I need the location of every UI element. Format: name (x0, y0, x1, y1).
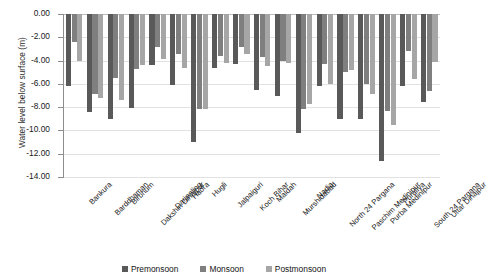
bar-postmonsoon (432, 14, 437, 62)
bar-monsoon (134, 14, 139, 69)
legend-item: Premonsoon (122, 264, 179, 274)
x-axis-tick-label: Hugli (210, 180, 229, 199)
bar-premonsoon (254, 14, 259, 90)
bar-premonsoon (400, 14, 405, 86)
bar-group (275, 14, 292, 177)
bar-postmonsoon (140, 14, 145, 65)
bar-postmonsoon (328, 14, 333, 84)
x-axis-tick-labels: BankuraBarddhamanBirbhumDakshin Dinajpur… (64, 180, 440, 242)
bar-premonsoon (170, 14, 175, 85)
bar-premonsoon (421, 14, 426, 102)
bar-group (129, 14, 146, 177)
bar-postmonsoon (77, 14, 82, 61)
bar-monsoon (197, 14, 202, 109)
gridline (64, 177, 440, 178)
bar-premonsoon (191, 14, 196, 142)
bar-postmonsoon (286, 14, 291, 63)
bar-monsoon (406, 14, 411, 51)
y-axis-tick (58, 130, 63, 131)
legend-swatch-icon (200, 266, 206, 272)
bar-group (233, 14, 250, 177)
bar-monsoon (343, 14, 348, 72)
y-axis-tick-label: -6.00 (0, 78, 50, 88)
bar-premonsoon (108, 14, 113, 119)
legend-label: Premonsoon (131, 264, 179, 274)
bar-monsoon (72, 14, 77, 42)
bar-premonsoon (337, 14, 342, 119)
legend-label: Postmonsoon (275, 264, 326, 274)
x-axis-tick-label: Maldah (275, 180, 299, 204)
bar-premonsoon (149, 14, 154, 65)
bar-monsoon (113, 14, 118, 78)
bar-monsoon (385, 14, 390, 111)
bar-premonsoon (358, 14, 363, 119)
legend-label: Monsoon (209, 264, 243, 274)
bar-monsoon (280, 14, 285, 61)
bar-postmonsoon (244, 14, 249, 54)
bar-monsoon (427, 14, 432, 91)
x-axis-tick-label: Bankura (88, 180, 114, 206)
bar-group (87, 14, 104, 177)
bar-monsoon (322, 14, 327, 64)
bar-monsoon (301, 14, 306, 109)
legend-item: Postmonsoon (266, 264, 326, 274)
bar-postmonsoon (119, 14, 124, 100)
bar-postmonsoon (224, 14, 229, 63)
y-axis-tick (58, 37, 63, 38)
bar-postmonsoon (370, 14, 375, 94)
bar-premonsoon (379, 14, 384, 161)
y-axis-tick (58, 177, 63, 178)
bar-group (421, 14, 438, 177)
y-axis-tick-label: -10.00 (0, 124, 50, 134)
bar-premonsoon (129, 14, 134, 108)
bar-monsoon (218, 14, 223, 56)
bar-group (337, 14, 354, 177)
bar-postmonsoon (307, 14, 312, 104)
y-axis-tick (58, 61, 63, 62)
bar-group (296, 14, 313, 177)
bar-premonsoon (87, 14, 92, 112)
bar-group (254, 14, 271, 177)
bar-monsoon (155, 14, 160, 47)
x-axis-tick-label: North 24 Pargana (348, 180, 397, 229)
y-axis-tick-label: -4.00 (0, 55, 50, 65)
y-axis-tick (58, 154, 63, 155)
bar-group (66, 14, 83, 177)
bar-monsoon (92, 14, 97, 94)
chart-legend: PremonsoonMonsoonPostmonsoon (0, 264, 448, 274)
bar-premonsoon (275, 14, 280, 96)
legend-swatch-icon (266, 266, 272, 272)
bar-group (379, 14, 396, 177)
bar-premonsoon (212, 14, 217, 68)
bar-monsoon (176, 14, 181, 54)
bar-premonsoon (233, 14, 238, 64)
bar-postmonsoon (391, 14, 396, 125)
bar-monsoon (364, 14, 369, 84)
y-axis-tick-label: -8.00 (0, 101, 50, 111)
bar-group (400, 14, 417, 177)
bar-group (358, 14, 375, 177)
y-axis-tick (58, 107, 63, 108)
bar-group (149, 14, 166, 177)
legend-item: Monsoon (200, 264, 243, 274)
bar-premonsoon (66, 14, 71, 86)
y-axis-tick-label: 0.00 (0, 8, 50, 18)
y-axis-tick (58, 84, 63, 85)
bar-premonsoon (296, 14, 301, 133)
legend-swatch-icon (122, 266, 128, 272)
bar-postmonsoon (182, 14, 187, 68)
y-axis-tick-label: -2.00 (0, 31, 50, 41)
bar-group (317, 14, 334, 177)
bar-postmonsoon (265, 14, 270, 66)
bar-group (170, 14, 187, 177)
bar-group (212, 14, 229, 177)
bar-postmonsoon (98, 14, 103, 98)
bar-postmonsoon (349, 14, 354, 70)
y-axis-tick (58, 14, 63, 15)
bar-monsoon (239, 14, 244, 47)
plot-area (64, 14, 440, 177)
y-axis-tick-label: -14.00 (0, 171, 50, 181)
bar-premonsoon (317, 14, 322, 86)
bar-postmonsoon (203, 14, 208, 109)
